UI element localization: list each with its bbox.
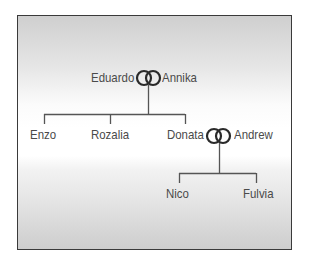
wedding-rings-icon <box>207 129 230 143</box>
person-fulvia: Fulvia <box>243 186 274 201</box>
person-donata: Donata <box>167 127 204 142</box>
person-enzo: Enzo <box>30 127 56 142</box>
person-annika: Annika <box>162 70 197 85</box>
person-nico: Nico <box>166 186 189 201</box>
person-rozalia: Rozalia <box>91 127 129 142</box>
person-andrew: Andrew <box>234 127 273 142</box>
wedding-rings-icon <box>137 71 160 85</box>
person-eduardo: Eduardo <box>91 70 134 85</box>
